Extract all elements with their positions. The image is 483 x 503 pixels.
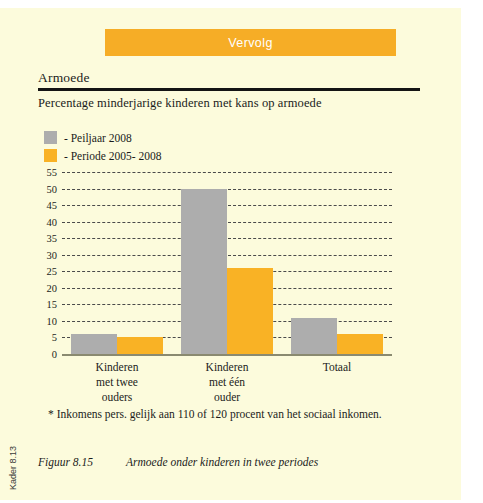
legend-item-label: - Peiljaar 2008 [64, 132, 132, 144]
gridline [62, 189, 392, 190]
section-title: Armoede [38, 70, 90, 86]
bar-chart-plot: 0510152025303540455055 [62, 172, 392, 354]
y-axis-tick-label: 15 [47, 299, 58, 310]
x-axis-label-line: met één [167, 375, 287, 390]
kader-side-label: Kader 8.13 [8, 438, 18, 498]
bar [227, 268, 273, 354]
x-axis-label-line: Kinderen [57, 360, 177, 375]
figure-card: Vervolg Armoede Percentage minderjarige … [0, 8, 461, 500]
bar [71, 334, 117, 354]
y-axis-tick-label: 55 [47, 167, 58, 178]
x-axis-label-line: Totaal [277, 360, 397, 375]
y-axis-tick-label: 0 [52, 349, 57, 360]
x-axis-label-line: ouder [167, 390, 287, 405]
gridline [62, 172, 392, 173]
legend-item-label: - Periode 2005- 2008 [64, 150, 161, 162]
chart-footnote: * Inkomens pers. gelijk aan 110 of 120 p… [48, 408, 382, 420]
y-axis-tick-label: 40 [47, 216, 58, 227]
gridline [62, 238, 392, 239]
legend-swatch-icon [44, 131, 57, 144]
legend-swatch-icon [44, 149, 57, 162]
figure-page: Vervolg Armoede Percentage minderjarige … [0, 0, 483, 503]
bar [117, 337, 163, 354]
gridline [62, 255, 392, 256]
x-axis-label: Kinderenmet tweeouders [57, 360, 177, 405]
y-axis-tick-label: 45 [47, 200, 58, 211]
y-axis-tick-label: 20 [47, 282, 58, 293]
x-axis-line [62, 354, 392, 356]
y-axis-tick-label: 30 [47, 249, 58, 260]
gridline [62, 222, 392, 223]
legend-item: - Peiljaar 2008 [44, 130, 161, 145]
figure-caption: Figuur 8.15Armoede onder kinderen in twe… [38, 456, 318, 468]
vervolg-banner: Vervolg [105, 29, 396, 56]
y-axis-tick-label: 25 [47, 266, 58, 277]
y-axis-tick-label: 50 [47, 183, 58, 194]
figure-number: Figuur 8.15 [38, 456, 126, 468]
vervolg-banner-label: Vervolg [228, 36, 273, 50]
x-axis-label-line: met twee [57, 375, 177, 390]
legend-item: - Periode 2005- 2008 [44, 148, 161, 163]
bar [291, 318, 337, 354]
x-axis-label-line: ouders [57, 390, 177, 405]
gridline [62, 205, 392, 206]
y-axis-tick-label: 35 [47, 233, 58, 244]
bar [337, 334, 383, 354]
x-axis-label: Totaal [277, 360, 397, 375]
title-divider [38, 88, 420, 91]
bar [181, 189, 227, 354]
x-axis-label-line: Kinderen [167, 360, 287, 375]
y-axis-tick-label: 10 [47, 315, 58, 326]
x-axis-label: Kinderenmet éénouder [167, 360, 287, 405]
chart-subtitle: Percentage minderjarige kinderen met kan… [38, 96, 322, 111]
y-axis-tick-label: 5 [52, 332, 57, 343]
figure-caption-text: Armoede onder kinderen in twee periodes [126, 456, 318, 468]
chart-legend: - Peiljaar 2008 - Periode 2005- 2008 [44, 130, 161, 166]
